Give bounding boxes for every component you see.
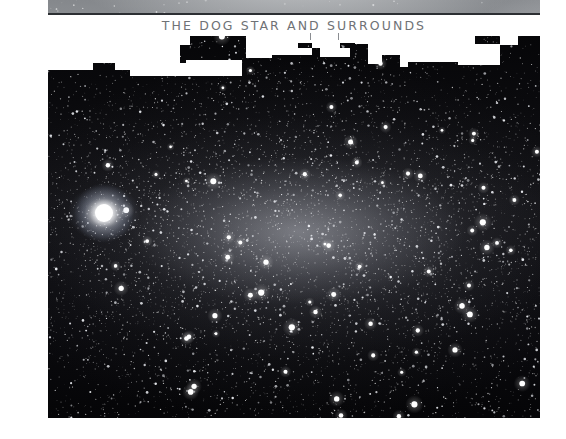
mask-block — [458, 55, 500, 65]
mask-block — [355, 36, 475, 44]
mask-block — [320, 48, 350, 57]
mask-block — [408, 55, 458, 62]
mask-block — [0, 418, 566, 439]
top-rule — [48, 13, 540, 15]
mask-block — [368, 44, 382, 64]
star-field-layer — [48, 13, 540, 418]
mask-block — [180, 36, 190, 45]
tick-mark — [338, 33, 339, 40]
mask-block — [466, 44, 500, 55]
starfield-photograph — [48, 13, 540, 418]
mask-block — [186, 60, 242, 76]
mask-block — [400, 55, 408, 67]
mask-block — [93, 55, 115, 63]
mask-block — [272, 48, 312, 55]
mask-block — [540, 0, 566, 439]
tick-mark — [310, 33, 311, 40]
mask-block — [48, 15, 540, 36]
mask-block — [48, 55, 93, 70]
mask-block — [246, 48, 272, 58]
mask-block — [130, 63, 188, 76]
mask-block — [0, 0, 48, 439]
mask-block — [500, 36, 518, 45]
mask-block — [246, 36, 298, 48]
poster-canvas: THE DOG STAR AND SURROUNDS — [0, 0, 566, 439]
